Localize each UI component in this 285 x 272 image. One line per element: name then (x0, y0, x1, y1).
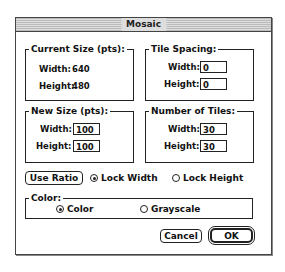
current-height-label: Height: (39, 80, 74, 92)
use-ratio-button[interactable]: Use Ratio (25, 171, 83, 185)
current-height-value: 480 (72, 80, 90, 92)
color-group-label: Color: (29, 192, 63, 204)
spacing-height-input[interactable]: 0 (200, 78, 227, 90)
mosaic-dialog: Mosaic Current Size (pts): Width: 640 He… (15, 17, 272, 255)
tiles-width-label: Width: (168, 123, 200, 135)
radio-unselected-icon (172, 174, 180, 182)
radio-selected-icon (56, 205, 64, 213)
color-option-label: Color (67, 204, 94, 214)
current-width-value: 640 (72, 63, 90, 75)
new-height-input[interactable]: 100 (73, 140, 100, 152)
spacing-width-label: Width: (168, 61, 200, 73)
cancel-button[interactable]: Cancel (160, 229, 202, 243)
tile-spacing-group: Tile Spacing: Width: 0 Height: 0 (145, 49, 254, 101)
new-size-group: New Size (pts): Width: 100 Height: 100 (25, 111, 134, 163)
tiles-height-input[interactable]: 30 (200, 140, 227, 152)
tiles-width-input[interactable]: 30 (200, 123, 227, 135)
new-width-input[interactable]: 100 (73, 123, 100, 135)
radio-unselected-icon (140, 205, 148, 213)
new-width-label: Width: (40, 123, 72, 135)
grayscale-radio[interactable]: Grayscale (140, 204, 200, 215)
tiles-height-label: Height: (164, 140, 199, 152)
color-radio[interactable]: Color (56, 204, 94, 215)
lock-height-radio[interactable]: Lock Height (172, 173, 243, 184)
window-title: Mosaic (121, 18, 166, 31)
tile-spacing-label: Tile Spacing: (149, 43, 218, 55)
radio-selected-icon (90, 174, 98, 182)
number-of-tiles-label: Number of Tiles: (149, 105, 237, 117)
spacing-height-label: Height: (164, 78, 199, 90)
spacing-width-input[interactable]: 0 (200, 61, 227, 73)
current-size-group: Current Size (pts): Width: 640 Height: 4… (25, 49, 134, 101)
grayscale-option-label: Grayscale (151, 204, 200, 214)
title-bar[interactable]: Mosaic (16, 18, 271, 32)
lock-height-label: Lock Height (183, 173, 243, 183)
lock-width-radio[interactable]: Lock Width (90, 173, 158, 184)
ok-button[interactable]: OK (210, 228, 253, 243)
current-size-label: Current Size (pts): (29, 43, 127, 55)
new-height-label: Height: (36, 140, 71, 152)
color-group: Color: Color Grayscale (25, 198, 253, 219)
current-width-label: Width: (39, 63, 71, 75)
number-of-tiles-group: Number of Tiles: Width: 30 Height: 30 (145, 111, 254, 163)
lock-width-label: Lock Width (101, 173, 158, 183)
new-size-label: New Size (pts): (29, 105, 110, 117)
